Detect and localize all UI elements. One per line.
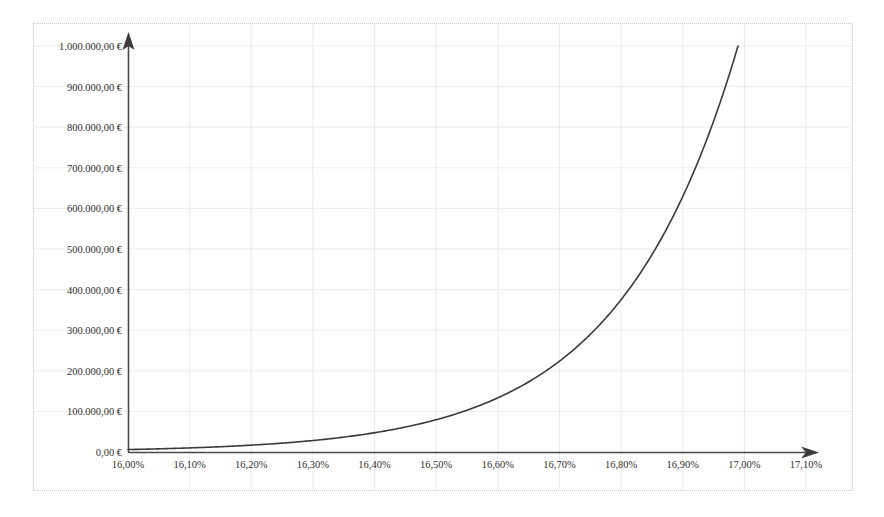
y-axis-tick-label: 400.000,00 €: [0, 284, 122, 295]
vertical-gridlines: [190, 24, 806, 490]
x-axis-tick-label: 16,90%: [667, 459, 699, 470]
chart-axes: [123, 32, 820, 459]
chart-figure: 0,00 €100.000,00 €200.000,00 €300.000,00…: [0, 0, 884, 517]
y-axis-tick-label: 900.000,00 €: [0, 81, 122, 92]
y-axis-tick-label: 700.000,00 €: [0, 162, 122, 173]
x-axis-tick-label: 16,50%: [420, 459, 452, 470]
x-axis-tick-label: 16,10%: [173, 459, 205, 470]
x-axis-tick-label: 16,20%: [235, 459, 267, 470]
horizontal-gridlines: [34, 46, 852, 411]
y-axis-tick-label: 100.000,00 €: [0, 406, 122, 417]
x-axis-tick-label: 16,30%: [297, 459, 329, 470]
y-axis-tick-label: 600.000,00 €: [0, 203, 122, 214]
y-axis-tick-label: 0,00 €: [0, 447, 122, 458]
data-series-line: [128, 46, 738, 450]
y-axis-tick-label: 800.000,00 €: [0, 122, 122, 133]
chart-canvas: [0, 0, 884, 517]
x-axis-tick-label: 16,70%: [543, 459, 575, 470]
x-axis-tick-label: 16,60%: [482, 459, 514, 470]
y-axis-tick-label: 500.000,00 €: [0, 244, 122, 255]
y-axis-tick-label: 1.000.000,00 €: [0, 41, 122, 52]
x-axis-tick-label: 17,10%: [790, 459, 822, 470]
x-axis-tick-label: 17,00%: [728, 459, 760, 470]
y-axis-tick-label: 300.000,00 €: [0, 325, 122, 336]
x-axis-tick-label: 16,40%: [358, 459, 390, 470]
x-axis-tick-label: 16,00%: [112, 459, 144, 470]
y-axis-tick-label: 200.000,00 €: [0, 365, 122, 376]
x-axis-tick-label: 16,80%: [605, 459, 637, 470]
